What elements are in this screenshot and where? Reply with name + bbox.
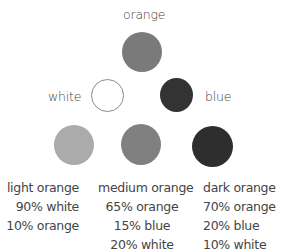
recipe-light-orange: light orange 90% white 10% orange <box>6 178 79 235</box>
mix-line: 65% orange <box>98 197 186 216</box>
mix-line: 90% white <box>6 197 79 216</box>
mix-line: 10% orange <box>6 216 79 235</box>
mix-line: 70% orange <box>203 197 276 216</box>
recipe-medium-orange: medium orange 65% orange 15% blue 20% wh… <box>98 178 186 250</box>
mix-line: 20% blue <box>203 216 276 235</box>
mix-name: dark orange <box>203 178 276 197</box>
label-blue: blue <box>205 91 231 104</box>
recipe-dark-orange: dark orange 70% orange 20% blue 10% whit… <box>203 178 276 250</box>
mix-line: 15% blue <box>98 216 186 235</box>
mix-name: light orange <box>6 178 79 197</box>
swatch-light-orange <box>54 125 94 165</box>
swatch-white <box>91 79 124 112</box>
swatch-medium-orange <box>121 124 161 165</box>
label-white: white <box>48 91 81 104</box>
mix-name: medium orange <box>98 178 186 197</box>
label-orange: orange <box>123 9 165 22</box>
swatch-blue <box>160 78 193 112</box>
swatch-orange <box>122 32 162 72</box>
swatch-dark-orange <box>192 126 233 167</box>
mix-line: 20% white <box>98 235 186 250</box>
mix-line: 10% white <box>203 235 276 250</box>
